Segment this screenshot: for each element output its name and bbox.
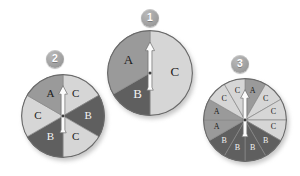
sector-label-a: A xyxy=(214,107,220,116)
sector-label-b: B xyxy=(235,143,240,152)
sector-label-b: B xyxy=(222,136,227,145)
spinner-disc[interactable]: ACCCBBBBAACC xyxy=(203,78,287,162)
sector-label-c: C xyxy=(171,64,180,79)
sector-label-b: B xyxy=(47,130,54,142)
sector-label-b: B xyxy=(250,143,255,152)
spinner-number-badge-1: 1 xyxy=(141,9,159,27)
sector-label-c: C xyxy=(271,122,276,131)
sector-label-a: A xyxy=(250,86,256,95)
spinner-wheel-2[interactable]: CBCBCA xyxy=(21,74,105,158)
sector-label-b: B xyxy=(85,109,92,121)
needle-hub xyxy=(62,115,65,118)
spinner-wheel-1[interactable]: CBA xyxy=(107,30,193,116)
sector-label-c: C xyxy=(235,86,240,95)
spinner-wheel-3[interactable]: ACCCBBBBAACC xyxy=(203,78,287,162)
sector-label-c: C xyxy=(222,94,227,103)
spinner-number-badge-3: 3 xyxy=(231,55,249,73)
sector-label-a: A xyxy=(124,52,134,67)
spinner-disc[interactable]: CBA xyxy=(107,30,193,116)
needle-hub xyxy=(148,71,151,74)
sector-label-c: C xyxy=(263,94,268,103)
sector-label-c: C xyxy=(271,107,276,116)
sector-label-c: C xyxy=(72,130,79,142)
spinner-number-badge-2: 2 xyxy=(46,50,64,68)
sector-label-c: C xyxy=(72,87,79,99)
sector-label-b: B xyxy=(133,86,142,101)
sector-label-a: A xyxy=(46,87,54,99)
sector-label-b: B xyxy=(263,136,268,145)
sector-label-a: A xyxy=(214,122,220,131)
spinner-disc[interactable]: CBCBCA xyxy=(21,74,105,158)
sector-label-c: C xyxy=(34,109,41,121)
spinners-figure: CBA1CBCBCA2ACCCBBBBAACC3 xyxy=(0,0,300,176)
needle-hub xyxy=(244,119,247,122)
